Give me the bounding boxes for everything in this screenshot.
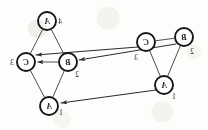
node-index-label: 1 [172,92,176,101]
graph-edge-R-C3-to-R-A1 [150,51,160,75]
graph-diagram-canvas: A4C3B2A1C3B2A1 [0,0,208,130]
mapping-arrows-layer [36,44,176,103]
node-letter-label: A [161,81,168,90]
graph-node-L-C3: C3 [10,53,35,71]
graph-node-L-A4: A4 [38,12,62,30]
graph-edge-L-A4-to-L-C3 [31,30,43,53]
node-letter-label: B [181,33,188,42]
mapping-arrow-map-A [61,90,156,103]
graph-edge-R-C3-to-R-B2 [156,38,174,40]
node-index-label: 2 [75,70,79,79]
node-letter-label: A [46,102,53,111]
graph-edge-L-A1-to-L-B2 [53,71,64,96]
nodes-layer: A4C3B2A1C3B2A1 [10,12,194,117]
graph-edge-R-B2-to-R-A1 [168,46,180,75]
node-index-label: 4 [58,17,62,26]
graph-node-L-A1: A1 [40,97,63,117]
graph-node-R-A1: A1 [155,76,176,101]
node-letter-label: C [143,38,149,47]
mapping-arrow-map-C [36,47,138,55]
graph-edge-L-A4-to-L-B2 [52,30,64,53]
node-letter-label: A [44,17,51,26]
mapping-arrow-map-B [79,44,176,60]
node-index-label: 1 [59,108,63,117]
node-letter-label: C [23,58,29,67]
node-index-label: 2 [190,47,194,56]
graph-edge-L-A1-to-L-C3 [31,71,45,97]
node-index-label: 3 [134,53,138,62]
node-letter-label: B [65,58,72,67]
node-index-label: 3 [10,58,14,67]
figure-root: A4C3B2A1C3B2A1 [0,0,208,130]
